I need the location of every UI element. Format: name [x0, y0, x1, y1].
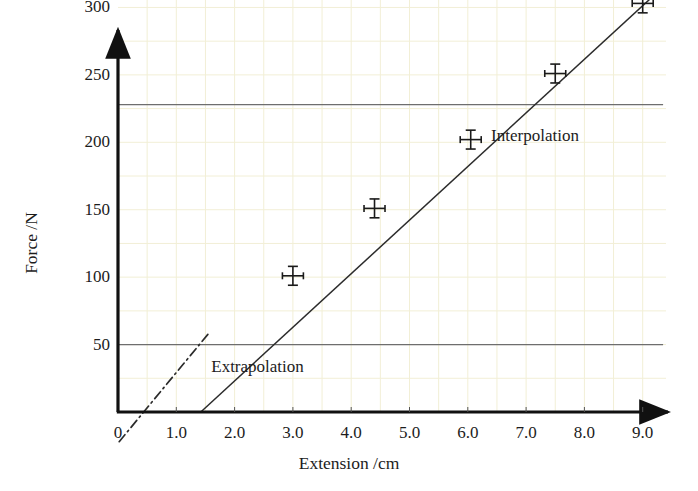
- x-tick-label: 0: [93, 424, 143, 441]
- data-point-errorbar: [364, 199, 385, 218]
- x-tick-label: 3.0: [268, 424, 318, 441]
- x-axis-title: Extension /cm: [0, 455, 698, 473]
- y-tick-label: 50: [58, 336, 110, 353]
- x-tick-label: 6.0: [443, 424, 493, 441]
- x-tick-label: 8.0: [559, 424, 609, 441]
- data-point-errorbar: [632, 0, 653, 13]
- x-tick-label: 4.0: [326, 424, 376, 441]
- x-tick-label: 9.0: [618, 424, 668, 441]
- y-tick-label: 150: [58, 201, 110, 218]
- x-tick-label: 1.0: [151, 424, 201, 441]
- gridlines-horizontal: [118, 0, 666, 378]
- reference-lines: [118, 105, 663, 345]
- data-point-errorbar: [282, 266, 303, 285]
- y-tick-label: 200: [58, 133, 110, 150]
- annotation-interpolation: Interpolation: [491, 127, 579, 144]
- x-tick-label: 2.0: [210, 424, 260, 441]
- annotation-extrapolation: Extrapolation: [211, 358, 304, 375]
- y-tick-label: 250: [58, 66, 110, 83]
- axes-group: [117, 30, 668, 412]
- y-axis-title: Force /N: [21, 212, 42, 274]
- y-tick-label: 100: [58, 268, 110, 285]
- x-tick-label: 5.0: [385, 424, 435, 441]
- data-point-errorbar: [460, 130, 481, 149]
- y-axis-title-wrap: Force /N: [16, 178, 46, 308]
- x-tick-label: 7.0: [501, 424, 551, 441]
- y-tick-label: 300: [58, 0, 110, 15]
- best-fit-line: [201, 0, 667, 412]
- gridlines-vertical: [147, 0, 643, 412]
- force-extension-chart: 5010015020025030001.02.03.04.05.06.07.08…: [0, 0, 698, 491]
